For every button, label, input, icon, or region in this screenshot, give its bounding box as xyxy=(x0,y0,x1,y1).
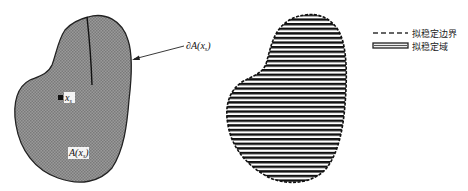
left-region: xs A(xs) xyxy=(15,16,132,183)
region-label: A(xs) xyxy=(68,147,89,159)
stability-region-diagram: xs A(xs) ∂A(xs) 拟稳定边界 拟稳定域 xyxy=(0,0,468,191)
quasi-stable-domain-shape xyxy=(227,14,347,182)
legend: 拟稳定边界 拟稳定域 xyxy=(373,28,457,52)
legend-label-boundary: 拟稳定边界 xyxy=(412,28,457,39)
arrow-head-icon xyxy=(132,56,140,61)
boundary-callout: ∂A(xs) xyxy=(132,40,211,60)
legend-item-domain: 拟稳定域 xyxy=(373,41,448,52)
right-region xyxy=(227,14,347,182)
legend-item-boundary: 拟稳定边界 xyxy=(373,28,457,39)
state-point-marker xyxy=(58,95,63,100)
legend-label-domain: 拟稳定域 xyxy=(412,41,448,52)
callout-arrow-line xyxy=(134,46,184,59)
boundary-label: ∂A(xs) xyxy=(186,40,211,52)
